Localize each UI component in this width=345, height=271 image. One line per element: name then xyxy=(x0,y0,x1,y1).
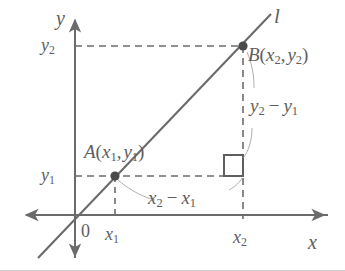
y-axis-label: y xyxy=(56,8,65,28)
y2-tick-sub: 2 xyxy=(49,43,55,57)
x2-tick-label: x2 xyxy=(233,228,247,249)
point-A-y: y xyxy=(123,141,131,162)
x1-tick-base: x xyxy=(105,224,113,244)
leader-rise-bottom xyxy=(243,128,252,158)
y2-tick-base: y xyxy=(41,35,49,55)
rise-annotation: y2−y1 xyxy=(250,96,298,118)
y1-tick-sub: 1 xyxy=(49,173,55,187)
run-trail: x xyxy=(181,187,189,208)
slope-diagram-figure: y x l y2 y1 0 x1 x2 A(x1,y1) B(x2,y2) y2… xyxy=(0,0,345,271)
rise-minus: − xyxy=(269,95,280,116)
line-label: l xyxy=(274,6,280,27)
point-A-comma: , xyxy=(117,141,122,162)
point-B-paren-close: ) xyxy=(302,44,308,65)
point-B-x-sub: 2 xyxy=(274,53,280,67)
point-A-label: A(x1,y1) xyxy=(84,142,144,164)
line-l xyxy=(38,14,271,258)
x2-tick-base: x xyxy=(233,227,241,247)
rise-lead-sub: 2 xyxy=(258,104,264,118)
point-B-marker xyxy=(238,41,247,50)
point-A-paren-close: ) xyxy=(138,141,144,162)
point-B-comma: , xyxy=(281,44,286,65)
point-B-label: B(x2,y2) xyxy=(248,45,308,67)
run-lead-sub: 2 xyxy=(156,196,162,210)
point-B-y: y xyxy=(287,44,295,65)
point-A-x-sub: 1 xyxy=(110,150,116,164)
y1-tick-label: y1 xyxy=(41,166,55,187)
run-trail-sub: 1 xyxy=(190,196,196,210)
right-angle-marker xyxy=(224,155,243,176)
run-minus: − xyxy=(167,187,178,208)
point-B-name: B xyxy=(248,44,260,65)
x1-tick-sub: 1 xyxy=(113,232,119,246)
rise-trail-sub: 1 xyxy=(292,104,298,118)
y2-tick-label: y2 xyxy=(41,36,55,57)
point-A-name: A xyxy=(84,141,96,162)
x-axis-label: x xyxy=(308,232,317,252)
y1-tick-base: y xyxy=(41,165,49,185)
rise-trail: y xyxy=(283,95,291,116)
x1-tick-label: x1 xyxy=(105,225,119,246)
x2-tick-sub: 2 xyxy=(241,235,247,249)
origin-label: 0 xyxy=(81,222,90,240)
point-A-marker xyxy=(110,171,119,180)
leader-run-right xyxy=(229,178,242,190)
run-annotation: x2−x1 xyxy=(148,188,196,210)
